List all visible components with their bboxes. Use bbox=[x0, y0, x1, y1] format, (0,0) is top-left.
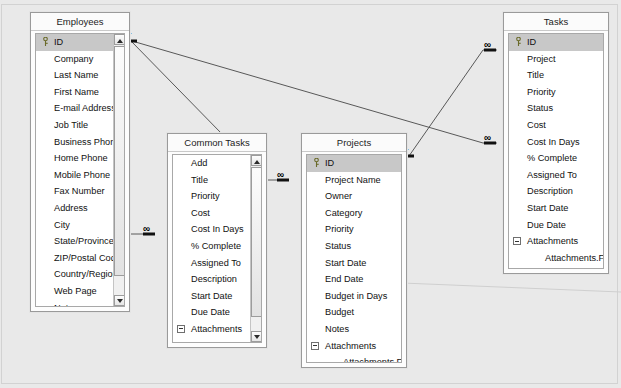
field-row[interactable]: Priority bbox=[307, 221, 401, 238]
field-row[interactable]: Job Title bbox=[36, 117, 113, 134]
field-row[interactable]: % Complete bbox=[173, 238, 250, 255]
table-body-common-tasks[interactable]: AddTitlePriorityCostCost In Days% Comple… bbox=[172, 154, 262, 343]
field-row[interactable]: Cost In Days bbox=[173, 221, 250, 238]
field-row[interactable]: Business Phone bbox=[36, 134, 113, 151]
field-row[interactable]: Priority bbox=[173, 188, 250, 205]
field-row[interactable]: Project Name bbox=[307, 172, 401, 189]
field-label: Notes bbox=[325, 324, 349, 334]
field-row[interactable]: Category bbox=[307, 205, 401, 222]
field-row[interactable]: Attachments bbox=[173, 321, 250, 338]
field-row[interactable]: Address bbox=[36, 200, 113, 217]
field-row[interactable]: Budget bbox=[307, 304, 401, 321]
field-row[interactable]: Fax Number bbox=[36, 183, 113, 200]
cardinality-many-common-tasks-left: ∞ bbox=[143, 225, 149, 233]
field-label: Notes bbox=[54, 303, 78, 307]
scroll-down-button-common-tasks[interactable] bbox=[251, 331, 262, 342]
field-row[interactable]: Due Date bbox=[173, 304, 250, 321]
field-row[interactable]: ID bbox=[509, 34, 603, 51]
scroll-up-button-employees[interactable] bbox=[114, 34, 125, 45]
field-row[interactable]: Cost In Days bbox=[509, 134, 603, 151]
field-row[interactable]: Attachments.FileName bbox=[509, 266, 603, 268]
field-row[interactable]: Mobile Phone bbox=[36, 167, 113, 184]
scrollbar-employees[interactable] bbox=[113, 34, 124, 306]
field-row[interactable]: ID bbox=[36, 34, 113, 51]
field-row[interactable]: Attachments bbox=[307, 338, 401, 355]
scroll-down-button-employees[interactable] bbox=[114, 295, 125, 306]
collapse-expand-icon[interactable] bbox=[513, 237, 521, 245]
field-row[interactable]: Attachments.FileData bbox=[307, 354, 401, 362]
field-list-employees[interactable]: IDCompanyLast NameFirst NameE-mail Addre… bbox=[36, 34, 113, 306]
table-body-tasks[interactable]: IDProjectTitlePriorityStatusCostCost In … bbox=[508, 33, 604, 269]
table-title-employees: Employees bbox=[31, 13, 129, 31]
field-row[interactable]: End Date bbox=[307, 271, 401, 288]
field-label: Attachments.FileData bbox=[209, 341, 250, 342]
field-row[interactable]: Attachments.FileData bbox=[509, 250, 603, 267]
collapse-expand-icon[interactable] bbox=[177, 325, 185, 333]
relationships-canvas[interactable]: 1 ∞ ∞ ∞ ∞ 1 Employees IDCompanyLast Name… bbox=[0, 0, 621, 388]
field-row[interactable]: State/Province bbox=[36, 233, 113, 250]
table-title-common-tasks: Common Tasks bbox=[168, 134, 266, 152]
field-row[interactable]: ZIP/Postal Code bbox=[36, 250, 113, 267]
field-row[interactable]: Home Phone bbox=[36, 150, 113, 167]
field-list-common-tasks[interactable]: AddTitlePriorityCostCost In Days% Comple… bbox=[173, 155, 250, 342]
field-row[interactable]: Status bbox=[307, 238, 401, 255]
field-row[interactable]: Notes bbox=[307, 321, 401, 338]
field-row[interactable]: E-mail Address bbox=[36, 100, 113, 117]
field-list-projects[interactable]: IDProject NameOwnerCategoryPriorityStatu… bbox=[307, 155, 401, 362]
table-body-employees[interactable]: IDCompanyLast NameFirst NameE-mail Addre… bbox=[35, 33, 125, 307]
field-row[interactable]: Description bbox=[173, 271, 250, 288]
field-row[interactable]: Cost bbox=[173, 205, 250, 222]
field-label: Attachments.FileData bbox=[343, 357, 401, 362]
field-row[interactable]: Start Date bbox=[173, 288, 250, 305]
field-row[interactable]: Title bbox=[173, 172, 250, 189]
field-row[interactable]: Priority bbox=[509, 84, 603, 101]
field-row[interactable]: Due Date bbox=[509, 217, 603, 234]
cardinality-many-common-tasks-right: ∞ bbox=[277, 171, 283, 179]
field-label: Country/Region bbox=[54, 269, 113, 279]
field-row[interactable]: Assigned To bbox=[509, 167, 603, 184]
table-window-tasks[interactable]: Tasks IDProjectTitlePriorityStatusCostCo… bbox=[503, 12, 609, 274]
field-row[interactable]: Add bbox=[173, 155, 250, 172]
field-row[interactable]: Status bbox=[509, 100, 603, 117]
field-row[interactable]: Assigned To bbox=[173, 255, 250, 272]
table-window-projects[interactable]: Projects IDProject NameOwnerCategoryPrio… bbox=[301, 133, 407, 368]
field-row[interactable]: Budget in Days bbox=[307, 288, 401, 305]
field-row[interactable]: First Name bbox=[36, 84, 113, 101]
scroll-thumb-common-tasks[interactable] bbox=[251, 167, 262, 317]
table-window-common-tasks[interactable]: Common Tasks AddTitlePriorityCostCost In… bbox=[167, 133, 267, 348]
field-row[interactable]: Last Name bbox=[36, 67, 113, 84]
field-row[interactable]: Start Date bbox=[307, 255, 401, 272]
field-row[interactable]: Cost bbox=[509, 117, 603, 134]
primary-key-icon bbox=[312, 158, 321, 168]
field-row[interactable]: Description bbox=[509, 183, 603, 200]
field-row[interactable]: Web Page bbox=[36, 283, 113, 300]
field-row[interactable]: Notes bbox=[36, 300, 113, 307]
field-row[interactable]: % Complete bbox=[509, 150, 603, 167]
field-row[interactable]: Country/Region bbox=[36, 266, 113, 283]
scroll-up-button-common-tasks[interactable] bbox=[251, 155, 262, 166]
field-row[interactable]: Start Date bbox=[509, 200, 603, 217]
cardinality-many-tasks-employees: ∞ bbox=[484, 134, 490, 142]
field-row[interactable]: Owner bbox=[307, 188, 401, 205]
field-row[interactable]: Attachments.FileData bbox=[173, 338, 250, 342]
field-label: First Name bbox=[54, 87, 99, 97]
field-list-tasks[interactable]: IDProjectTitlePriorityStatusCostCost In … bbox=[509, 34, 603, 268]
field-label: Cost In Days bbox=[527, 137, 580, 147]
table-window-employees[interactable]: Employees IDCompanyLast NameFirst NameE-… bbox=[30, 12, 130, 312]
scrollbar-common-tasks[interactable] bbox=[250, 155, 261, 342]
table-body-projects[interactable]: IDProject NameOwnerCategoryPriorityStatu… bbox=[306, 154, 402, 363]
field-row[interactable]: Company bbox=[36, 51, 113, 68]
field-label: Due Date bbox=[191, 307, 230, 317]
cardinality-many-tasks-projects: ∞ bbox=[484, 41, 490, 49]
field-row[interactable]: Attachments bbox=[509, 233, 603, 250]
collapse-expand-icon[interactable] bbox=[311, 342, 319, 350]
field-row[interactable]: City bbox=[36, 217, 113, 234]
scroll-thumb-employees[interactable] bbox=[114, 46, 125, 276]
field-row[interactable]: Title bbox=[509, 67, 603, 84]
field-row[interactable]: Project bbox=[509, 51, 603, 68]
field-label: State/Province bbox=[54, 236, 113, 246]
field-label: Priority bbox=[527, 87, 556, 97]
field-label: Assigned To bbox=[191, 258, 241, 268]
field-row[interactable]: ID bbox=[307, 155, 401, 172]
field-label: End Date bbox=[325, 274, 363, 284]
